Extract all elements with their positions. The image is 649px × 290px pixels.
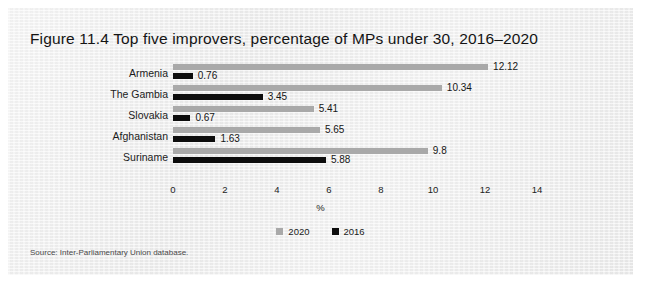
legend-item-2016[interactable]: 2016 (332, 226, 365, 237)
value-label-2016: 0.67 (195, 112, 214, 123)
category-label: Slovakia (8, 109, 168, 121)
bar-group: 5.410.67 (173, 104, 633, 125)
bar-2016 (173, 157, 326, 163)
x-tick-label: 0 (170, 184, 175, 195)
bar-group: 9.85.88 (173, 146, 633, 167)
x-tick-label: 4 (274, 184, 279, 195)
category-label: Armenia (8, 67, 168, 79)
legend-swatch-icon (276, 228, 283, 235)
figure-page: Figure 11.4 Top five improvers, percenta… (8, 8, 633, 275)
x-tick-label: 2 (222, 184, 227, 195)
bar-group: 12.120.76 (173, 62, 633, 83)
category-label: Suriname (8, 151, 168, 163)
legend-swatch-icon (332, 228, 339, 235)
chart-row: Slovakia5.410.67 (8, 104, 633, 125)
chart-legend: 20202016 (8, 226, 633, 237)
chart-row: Suriname9.85.88 (8, 146, 633, 167)
x-tick-label: 6 (326, 184, 331, 195)
bar-2020 (173, 127, 320, 133)
bar-group: 10.343.45 (173, 83, 633, 104)
bar-2020 (173, 64, 488, 70)
x-tick-label: 12 (480, 184, 491, 195)
x-axis: 02468101214 (8, 184, 633, 200)
legend-label: 2016 (344, 226, 365, 237)
value-label-2016: 3.45 (268, 91, 287, 102)
bar-group: 5.651.63 (173, 125, 633, 146)
bar-2020 (173, 106, 314, 112)
x-tick-label: 8 (378, 184, 383, 195)
value-label-2020: 9.8 (433, 145, 447, 156)
value-label-2020: 12.12 (493, 61, 518, 72)
bar-2020 (173, 148, 428, 154)
chart-row: The Gambia10.343.45 (8, 83, 633, 104)
bar-2020 (173, 85, 442, 91)
value-label-2016: 0.76 (198, 70, 217, 81)
figure-title: Figure 11.4 Top five improvers, percenta… (30, 30, 538, 48)
value-label-2020: 5.41 (319, 103, 338, 114)
bar-2016 (173, 94, 263, 100)
x-tick-label: 10 (428, 184, 439, 195)
value-label-2016: 5.88 (331, 154, 350, 165)
chart-plot-area: Armenia12.120.76The Gambia10.343.45Slova… (8, 62, 633, 187)
category-label: The Gambia (8, 88, 168, 100)
chart-row: Afghanistan5.651.63 (8, 125, 633, 146)
value-label-2016: 1.63 (220, 133, 239, 144)
value-label-2020: 5.65 (325, 124, 344, 135)
bar-2016 (173, 73, 193, 79)
legend-item-2020[interactable]: 2020 (276, 226, 309, 237)
value-label-2020: 10.34 (447, 82, 472, 93)
x-tick-label: 14 (532, 184, 543, 195)
source-note: Source: Inter-Parliamentary Union databa… (30, 248, 188, 257)
chart-row: Armenia12.120.76 (8, 62, 633, 83)
x-axis-label: % (8, 202, 633, 213)
category-label: Afghanistan (8, 130, 168, 142)
bar-2016 (173, 136, 215, 142)
bar-2016 (173, 115, 190, 121)
legend-label: 2020 (288, 226, 309, 237)
